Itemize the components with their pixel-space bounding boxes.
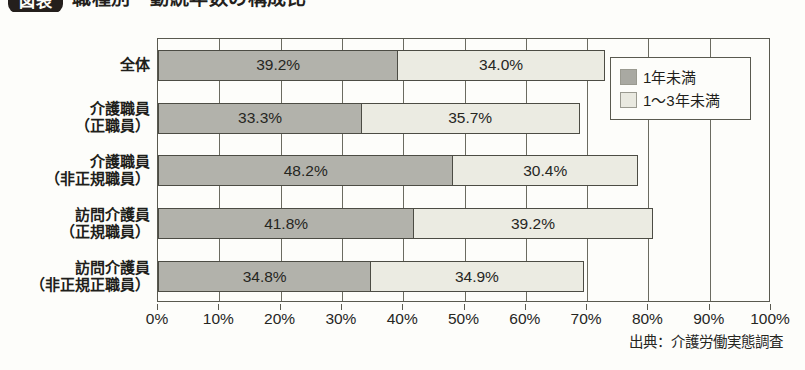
category-label: 介護職員（正職員） bbox=[0, 100, 150, 134]
x-tick-label: 30% bbox=[325, 310, 356, 328]
legend-item[interactable]: 1年未満 bbox=[620, 66, 742, 87]
x-tick-label: 0% bbox=[146, 310, 168, 328]
x-tick-label: 20% bbox=[264, 310, 295, 328]
bar-segment-1: 39.2% bbox=[158, 50, 398, 81]
bar-segment-2: 35.7% bbox=[361, 103, 580, 134]
category-label: 訪問介護員（正規職員） bbox=[0, 206, 150, 240]
category-label: 介護職員（非正規職員） bbox=[0, 153, 150, 187]
legend-label: 1年未満 bbox=[643, 66, 696, 87]
x-axis: 0%10%20%30%40%50%60%70%80%90%100% bbox=[157, 304, 770, 328]
bar-segment-1: 34.8% bbox=[158, 261, 371, 292]
chart-row: 48.2%30.4% bbox=[158, 145, 769, 198]
x-tick-label: 40% bbox=[387, 310, 418, 328]
bar-segment-1: 41.8% bbox=[158, 208, 414, 239]
stacked-bar[interactable]: 33.3%35.7% bbox=[158, 103, 580, 134]
x-tick-label: 10% bbox=[203, 310, 234, 328]
category-label: 全体 bbox=[0, 56, 150, 73]
legend-item[interactable]: 1〜3年未満 bbox=[620, 89, 742, 110]
source-note: 出典：介護労働実態調査 bbox=[629, 330, 783, 351]
bar-segment-2: 30.4% bbox=[452, 155, 638, 186]
x-tick-label: 80% bbox=[632, 310, 663, 328]
bar-segment-2: 34.9% bbox=[370, 261, 584, 292]
legend-swatch-icon bbox=[620, 69, 637, 85]
stacked-bar[interactable]: 48.2%30.4% bbox=[158, 155, 638, 186]
chart-row: 41.8%39.2% bbox=[158, 197, 769, 250]
stacked-bar[interactable]: 39.2%34.0% bbox=[158, 50, 605, 81]
stacked-bar[interactable]: 41.8%39.2% bbox=[158, 208, 653, 239]
title-badge: 図表 bbox=[8, 0, 63, 12]
category-label: 訪問介護員（非正規正職員） bbox=[0, 259, 150, 293]
chart-row: 34.8%34.9% bbox=[158, 250, 769, 303]
bar-segment-1: 48.2% bbox=[158, 155, 453, 186]
bar-segment-2: 34.0% bbox=[397, 50, 605, 81]
title-strip: 図表職種別・勤続年数の構成比 bbox=[0, 0, 805, 12]
bar-segment-2: 39.2% bbox=[413, 208, 653, 239]
legend-label: 1〜3年未満 bbox=[643, 89, 720, 110]
bar-chart: 39.2%34.0%33.3%35.7%48.2%30.4%41.8%39.2%… bbox=[0, 12, 805, 370]
legend: 1年未満1〜3年未満 bbox=[610, 57, 751, 120]
x-tick-label: 70% bbox=[571, 310, 602, 328]
x-tick-label: 60% bbox=[509, 310, 540, 328]
bar-segment-1: 33.3% bbox=[158, 103, 362, 134]
x-tick-label: 90% bbox=[693, 310, 724, 328]
legend-swatch-icon bbox=[620, 92, 637, 108]
x-tick-label: 50% bbox=[448, 310, 479, 328]
chart-title: 図表職種別・勤続年数の構成比 bbox=[8, 0, 306, 12]
stacked-bar[interactable]: 34.8%34.9% bbox=[158, 261, 584, 292]
title-text: 職種別・勤続年数の構成比 bbox=[72, 0, 306, 9]
x-tick-label: 100% bbox=[750, 310, 790, 328]
